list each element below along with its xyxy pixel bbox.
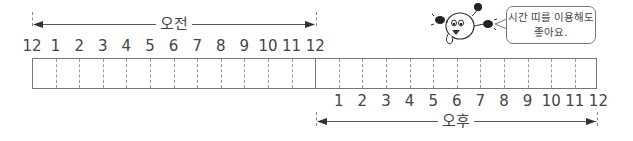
pm-hour-label: 4: [405, 94, 415, 109]
hour-tick: [339, 59, 340, 88]
pm-hour-label: 2: [358, 94, 368, 109]
hour-tick: [103, 59, 104, 88]
hour-tick: [551, 59, 552, 88]
noon-divider: [315, 59, 316, 88]
time-strip: [32, 58, 597, 89]
pm-hour-label: 5: [428, 94, 438, 109]
hour-tick: [79, 59, 80, 88]
pm-hour-label: 3: [381, 94, 391, 109]
pm-arrow-right-icon: [586, 117, 596, 126]
am-end-marker: [316, 12, 317, 26]
hour-tick: [126, 59, 127, 88]
hour-tick: [575, 59, 576, 88]
hour-tick: [386, 59, 387, 88]
hour-tick: [221, 59, 222, 88]
hour-tick: [410, 59, 411, 88]
speech-bubble-line2: 좋아요.: [507, 25, 595, 40]
am-hour-label: 11: [282, 39, 301, 54]
am-label: 오전: [156, 17, 192, 32]
am-hour-label: 1: [51, 39, 61, 54]
am-hour-label: 8: [216, 39, 226, 54]
pm-hour-label: 10: [542, 94, 561, 109]
pm-hour-label: 9: [523, 94, 533, 109]
hour-tick: [244, 59, 245, 88]
speech-bubble-line1: 시간 띠를 이용해도: [507, 10, 595, 25]
hour-tick: [457, 59, 458, 88]
am-hour-label: 3: [98, 39, 108, 54]
cartoon-mascot-icon: [428, 2, 500, 48]
am-hour-label: 6: [169, 39, 179, 54]
pm-arrow-left-icon: [317, 117, 327, 126]
am-hour-label: 10: [258, 39, 277, 54]
pm-hour-label: 1: [334, 94, 344, 109]
am-hour-label: 7: [192, 39, 202, 54]
hour-tick: [362, 59, 363, 88]
pm-label: 오후: [438, 114, 474, 129]
pm-hour-label: 8: [499, 94, 509, 109]
hour-tick: [56, 59, 57, 88]
pm-end-marker: [597, 112, 598, 126]
am-hour-label: 12: [306, 39, 325, 54]
am-arrow-left-icon: [33, 20, 43, 29]
pm-hour-label: 11: [565, 94, 584, 109]
am-hour-label: 4: [122, 39, 132, 54]
speech-bubble: 시간 띠를 이용해도 좋아요.: [506, 6, 596, 44]
pm-hour-label: 7: [476, 94, 486, 109]
hour-tick: [197, 59, 198, 88]
hour-tick: [268, 59, 269, 88]
hour-tick: [480, 59, 481, 88]
am-arrow-right-icon: [305, 20, 315, 29]
hour-tick: [174, 59, 175, 88]
hour-tick: [292, 59, 293, 88]
pm-hour-label: 6: [452, 94, 462, 109]
hour-tick: [528, 59, 529, 88]
pm-hour-label: 12: [589, 94, 608, 109]
am-hour-label: 12: [22, 39, 41, 54]
hour-tick: [433, 59, 434, 88]
am-hour-label: 2: [74, 39, 84, 54]
hour-tick: [150, 59, 151, 88]
am-hour-label: 9: [240, 39, 250, 54]
hour-tick: [504, 59, 505, 88]
am-hour-label: 5: [145, 39, 155, 54]
